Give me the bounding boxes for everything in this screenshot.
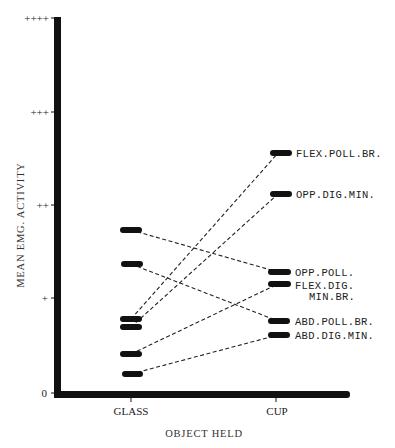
emg-activity-chart: ++++ +++ ++ + 0 GLASS CUP OBJECT HELD ME… (0, 0, 395, 448)
label-abd-poll-br: ABD.POLL.BR. (295, 316, 374, 328)
x-axis-title: OBJECT HELD (165, 428, 243, 439)
label-flex-dig-min-br-line2: MIN.BR. (309, 291, 355, 303)
label-abd-dig-min: ABD.DIG.MIN. (295, 330, 374, 342)
connector-lines (131, 153, 278, 374)
y-tick-label: + (42, 292, 48, 304)
y-ticks: ++++ +++ ++ + 0 (24, 12, 55, 399)
connector-abd-dig-min (131, 335, 278, 374)
label-opp-poll: OPP.POLL. (295, 267, 354, 279)
x-axis-line (54, 391, 350, 398)
marker-cup-abd-dig-min (268, 332, 290, 338)
y-tick-label: +++ (30, 106, 49, 118)
y-tick-label: ++++ (24, 12, 49, 24)
x-ticks: GLASS CUP (114, 398, 288, 417)
x-tick-label-glass: GLASS (114, 405, 149, 417)
marker-cup-flex-dig-min-br (268, 281, 291, 287)
marker-glass-flex-dig-min-br (120, 351, 142, 357)
marker-cup-opp-poll (268, 269, 291, 275)
marker-glass-flex-poll-br (120, 316, 142, 322)
marker-cup-flex-poll-br (270, 150, 292, 156)
connector-opp-dig-min (131, 194, 278, 327)
connector-abd-poll-br (131, 264, 278, 321)
y-tick-label: ++ (37, 199, 49, 211)
marker-glass-abd-dig-min (122, 371, 143, 377)
y-axis-title: MEAN EMG. ACTIVITY (15, 162, 26, 288)
x-tick-label-cup: CUP (266, 405, 287, 417)
marker-glass-opp-dig-min (120, 324, 142, 330)
marker-glass-abd-poll-br (121, 261, 143, 267)
marker-cup-abd-poll-br (268, 318, 290, 324)
marker-cup-opp-dig-min (270, 191, 292, 197)
y-axis-line (54, 17, 61, 398)
glass-markers (120, 227, 143, 377)
y-tick-label: 0 (42, 387, 48, 399)
label-opp-dig-min: OPP.DIG.MIN. (296, 189, 375, 201)
series-labels: FLEX.POLL.BR. OPP.DIG.MIN. OPP.POLL. FLE… (295, 148, 382, 342)
cup-markers (268, 150, 292, 338)
marker-glass-opp-poll (120, 227, 142, 233)
label-flex-poll-br: FLEX.POLL.BR. (296, 148, 382, 160)
